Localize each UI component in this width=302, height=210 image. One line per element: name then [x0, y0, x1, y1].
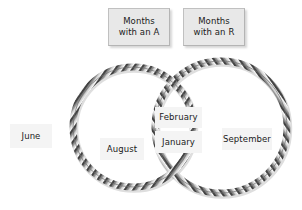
header-set-a-line2: with an A	[119, 27, 160, 39]
item-box-september[interactable]: September	[222, 128, 272, 150]
item-box-june[interactable]: June	[10, 124, 52, 148]
venn-diagram-canvas: Months with an A Months with an R June A…	[0, 0, 302, 210]
header-set-a-line1: Months	[123, 16, 155, 28]
header-box-set-a[interactable]: Months with an A	[108, 8, 170, 46]
item-label-august: August	[107, 144, 137, 155]
header-set-r-line2: with an R	[194, 27, 235, 39]
item-label-september: September	[223, 134, 271, 145]
header-set-r-line1: Months	[198, 16, 230, 28]
item-label-february: February	[159, 112, 197, 123]
item-label-january: January	[162, 137, 195, 148]
header-box-set-r[interactable]: Months with an R	[183, 8, 245, 46]
item-label-june: June	[22, 131, 41, 142]
item-box-february[interactable]: February	[155, 107, 202, 128]
item-box-august[interactable]: August	[100, 138, 144, 160]
item-box-january[interactable]: January	[155, 131, 202, 153]
